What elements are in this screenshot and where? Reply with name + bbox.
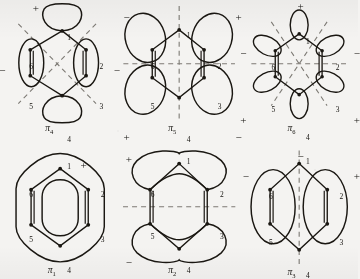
phase-sign-minus-2: − (354, 48, 360, 59)
atom-number-1: 1 (306, 158, 310, 166)
atom-number-2: 2 (220, 192, 224, 200)
phase-sign-minus-0: − (123, 11, 129, 22)
atom-number-1: 1 (187, 33, 191, 41)
phase-sign-minus-0: − (243, 170, 249, 181)
pi2-diagram (119, 140, 238, 279)
atom-number-5: 5 (151, 104, 155, 112)
atom-number-1: 1 (306, 38, 310, 46)
mo-label-pi2: π2 (168, 266, 176, 277)
phase-sign-minus-1: − (0, 64, 5, 75)
pi5-lobe-upper-right (186, 8, 238, 67)
mo-label-pi1: π1 (48, 266, 56, 277)
atom-number-2: 2 (336, 65, 340, 73)
atom-number-5: 5 (269, 239, 273, 247)
atom-number-3: 3 (100, 104, 104, 112)
pi2-lobe-top-crescent (133, 150, 227, 189)
pi5-lobe-lower-right (186, 60, 238, 119)
atom-number-2: 2 (339, 193, 343, 201)
mo-label-pi5: π5 (168, 124, 176, 135)
atom-number-3: 3 (220, 233, 224, 241)
atom-number-1: 1 (67, 164, 71, 172)
mo-panel-pi3: π3 123456−+ (239, 140, 358, 279)
atom-number-5: 5 (29, 236, 33, 244)
pi5-lobe-lower-left (120, 60, 172, 119)
phase-sign-plus-0: + (126, 154, 132, 165)
mo-panel-pi6: π6 123456+−−++− (239, 0, 358, 140)
atom-number-2: 2 (101, 192, 105, 200)
pi6-diagram (239, 0, 358, 140)
pi3-lobe-right (303, 169, 347, 243)
atom-number-4: 4 (187, 267, 191, 275)
mo-panel-pi5: π5 123456−++− (119, 0, 238, 140)
pi1-diagram (0, 140, 119, 279)
pi4-lobe-bottom (43, 96, 82, 123)
mo-panel-pi2: π2 123456+− (119, 140, 238, 279)
atom-number-3: 3 (336, 106, 340, 114)
pi1-inner-ring (42, 179, 78, 235)
atom-number-2: 2 (218, 63, 222, 71)
atom-number-3: 3 (339, 239, 343, 247)
atom-number-5: 5 (271, 106, 275, 114)
phase-sign-plus-0: + (33, 3, 39, 14)
atom-number-5: 5 (151, 233, 155, 241)
atom-number-6: 6 (269, 193, 273, 201)
atom-number-2: 2 (100, 63, 104, 71)
atom-number-6: 6 (151, 192, 155, 200)
mo-label-pi6: π6 (288, 124, 296, 135)
atom-number-6: 6 (29, 63, 33, 71)
atom-number-4: 4 (306, 272, 310, 279)
atom-number-6: 6 (29, 192, 33, 200)
atom-number-3: 3 (101, 236, 105, 244)
phase-sign-plus-0: + (298, 0, 304, 11)
atom-number-6: 6 (271, 65, 275, 73)
atom-number-4: 4 (67, 267, 71, 275)
atom-number-5: 5 (29, 104, 33, 112)
mo-panel-pi1: π1 123456 (0, 140, 119, 279)
atom-number-3: 3 (218, 104, 222, 112)
pi6-lobe-6 (250, 31, 285, 61)
pi6-lobe-2 (312, 31, 347, 61)
mo-label-pi4: π4 (45, 124, 53, 135)
atom-number-1: 1 (187, 158, 191, 166)
phase-sign-plus-3: + (240, 114, 246, 125)
phase-sign-plus-4: + (354, 114, 360, 125)
pi6-lobe-5 (250, 67, 285, 97)
mo-label-pi3: π3 (288, 268, 296, 279)
atom-number-6: 6 (151, 63, 155, 71)
mo-panel-pi4: π4 123456+−−+ (0, 0, 119, 140)
phase-sign-minus-1: − (240, 48, 246, 59)
pi4-lobe-top (43, 4, 82, 31)
pi3-diagram (239, 140, 358, 279)
phase-sign-plus-1: + (354, 170, 360, 181)
atom-number-1: 1 (67, 34, 71, 42)
pi2-lobe-bottom-crescent (133, 223, 227, 262)
phase-sign-minus-1: − (126, 257, 132, 268)
